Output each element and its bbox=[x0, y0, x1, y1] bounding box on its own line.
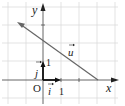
x-tick-label: 1 bbox=[59, 86, 64, 97]
basis-vector-i bbox=[43, 78, 61, 83]
vector-u-label: u bbox=[68, 46, 74, 58]
i-label: i bbox=[48, 85, 51, 97]
x-axis-label: x bbox=[105, 81, 112, 95]
y-axis-label: y bbox=[31, 3, 38, 17]
coordinate-diagram: y x O 1 1 j i u bbox=[0, 0, 125, 106]
y-tick-label: 1 bbox=[46, 57, 51, 68]
vector-u bbox=[17, 22, 98, 80]
y-axis bbox=[41, 3, 46, 104]
i-arrowhead-icon bbox=[52, 83, 54, 85]
j-label: j bbox=[33, 67, 38, 79]
origin-label: O bbox=[33, 82, 41, 94]
u-arrowhead-icon bbox=[73, 44, 75, 46]
basis-vector-j bbox=[41, 61, 46, 80]
